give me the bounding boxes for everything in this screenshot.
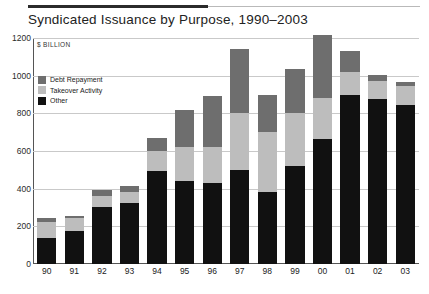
x-axis-tick-label: 92 [88,266,116,276]
y-axis-tick-labels: 020040060080010001200 [0,38,31,264]
bar-segment [147,171,166,264]
bar-segment [65,218,84,231]
x-axis-tick-label: 93 [116,266,144,276]
bar-stack [120,38,139,264]
bar-stack [258,38,277,264]
bar-segment [368,99,387,264]
bar-stack [230,38,249,264]
x-axis-tick-label: 95 [171,266,199,276]
legend-label: Takeover Activity [50,87,102,94]
bar-segment [258,95,277,132]
bar-segment [285,166,304,264]
bar-series-container [33,38,419,264]
bar-stack [92,38,111,264]
bar-segment [313,35,332,98]
bar-segment [203,183,222,264]
x-axis-tick-label: 03 [391,266,419,276]
bar-segment [230,113,249,170]
legend-label: Debt Repayment [50,76,103,83]
bar-segment [230,170,249,264]
bar-stack [340,38,359,264]
bar-segment [230,49,249,113]
bar-segment [285,69,304,113]
x-axis-tick-label: 94 [143,266,171,276]
y-axis-tick-label: 400 [17,184,31,194]
bar-stack [313,38,332,264]
bar-segment [258,132,277,192]
x-axis-tick-label: 99 [281,266,309,276]
bar-segment [120,203,139,264]
bar-segment [203,96,222,147]
bar-segment [37,222,56,238]
legend-item: Other [38,96,103,105]
bar-stack [396,38,415,264]
x-axis-tick-label: 98 [254,266,282,276]
bar-stack [147,38,166,264]
bar-segment [37,238,56,264]
bar-segment [120,192,139,202]
bar-segment [396,86,415,105]
chart-figure: Syndicated Issuance by Purpose, 1990–200… [0,0,429,294]
plot-area [33,38,419,264]
x-axis-tick-label: 96 [198,266,226,276]
bar-segment [285,113,304,166]
x-axis-tick-label: 90 [33,266,61,276]
x-axis-tick-label: 00 [309,266,337,276]
bar-stack [203,38,222,264]
bar-segment [340,51,359,72]
bar-segment [313,139,332,264]
bar-segment [65,231,84,264]
bar-segment [175,110,194,148]
bar-segment [147,151,166,171]
y-axis-tick-label: 1000 [12,71,31,81]
bar-segment [340,72,359,95]
bar-segment [368,81,387,99]
x-axis-tick-label: 02 [364,266,392,276]
bar-segment [147,138,166,151]
bar-stack [175,38,194,264]
y-axis-tick-label: 0 [26,259,31,269]
x-axis-tick-label: 97 [226,266,254,276]
bar-segment [368,75,387,82]
bar-stack [37,38,56,264]
bar-segment [175,147,194,181]
y-axis-tick-label: 1200 [12,33,31,43]
x-axis-tick-label: 01 [336,266,364,276]
y-axis-tick-label: 200 [17,221,31,231]
legend-item: Debt Repayment [38,75,103,84]
chart-legend: Debt RepaymentTakeover ActivityOther [38,75,103,107]
bar-stack [368,38,387,264]
bar-segment [396,105,415,264]
legend-swatch-icon [38,97,46,105]
bar-segment [258,192,277,264]
x-axis-tick-label: 91 [61,266,89,276]
y-axis-tick-label: 600 [17,146,31,156]
header-rule-light [208,6,420,7]
legend-label: Other [50,97,68,104]
bar-segment [92,190,111,197]
x-axis-tick-labels: 9091929394959697989900010203 [33,266,419,280]
y-axis-tick-label: 800 [17,108,31,118]
bar-segment [65,216,84,218]
bar-segment [37,218,56,222]
bar-stack [285,38,304,264]
legend-item: Takeover Activity [38,86,103,95]
header-rule-dark [28,5,208,8]
bar-stack [65,38,84,264]
bar-segment [120,186,139,193]
legend-swatch-icon [38,76,46,84]
bar-segment [92,207,111,264]
bar-segment [92,196,111,206]
chart-title: Syndicated Issuance by Purpose, 1990–200… [28,12,308,27]
bar-segment [396,82,415,86]
bar-segment [203,147,222,183]
bar-segment [175,181,194,264]
bar-segment [313,98,332,138]
legend-swatch-icon [38,86,46,94]
bar-segment [340,95,359,265]
